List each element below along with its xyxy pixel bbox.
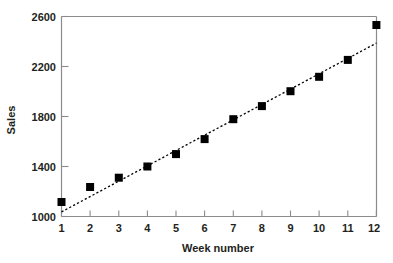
data-point-week-6	[201, 135, 209, 143]
data-point-week-4	[143, 163, 151, 171]
data-point-week-7	[229, 115, 237, 123]
x-tick-label-3: 3	[116, 222, 122, 234]
data-point-week-3	[115, 174, 123, 182]
data-point-week-5	[172, 150, 180, 158]
y-axis-tick-labels: 2600 2200 1800 1400 1000	[32, 11, 56, 223]
data-point-week-2	[86, 183, 94, 191]
x-tick-label-4: 4	[144, 222, 151, 234]
x-tick-label-8: 8	[259, 222, 265, 234]
x-tick-label-10: 10	[313, 222, 325, 234]
x-tick-label-12: 12	[368, 222, 380, 234]
x-tick-label-5: 5	[173, 222, 179, 234]
x-tick-label-11: 11	[342, 222, 354, 234]
x-axis-tick-labels: 1 2 3 4 5 6 7 8 9 10 11 12	[58, 222, 380, 234]
data-point-week-12	[372, 21, 380, 29]
x-tick-label-7: 7	[230, 222, 236, 234]
y-tick-label-2600: 2600	[32, 11, 56, 23]
x-tick-label-6: 6	[202, 222, 208, 234]
x-tick-label-9: 9	[287, 222, 293, 234]
data-point-week-8	[258, 102, 266, 110]
y-tick-label-1800: 1800	[32, 111, 56, 123]
x-tick-label-1: 1	[58, 222, 64, 234]
chart-figure: 2600 2200 1800 1400 1000 1 2 3 4	[0, 0, 393, 263]
data-point-week-10	[315, 73, 323, 81]
data-point-week-1	[58, 198, 66, 206]
x-axis-ticks	[62, 211, 377, 217]
y-tick-label-1400: 1400	[32, 161, 56, 173]
y-tick-label-2200: 2200	[32, 61, 56, 73]
y-tick-label-1000: 1000	[32, 211, 56, 223]
sales-vs-week-scatter-chart: 2600 2200 1800 1400 1000 1 2 3 4	[0, 0, 393, 263]
trend-line	[62, 43, 377, 212]
data-point-week-9	[287, 87, 295, 95]
data-point-week-11	[344, 56, 352, 64]
y-axis-ticks	[62, 17, 69, 217]
x-axis-title: Week number	[182, 242, 255, 254]
data-series-sales	[58, 21, 381, 206]
x-tick-label-2: 2	[87, 222, 93, 234]
y-axis-title: Sales	[5, 106, 17, 135]
